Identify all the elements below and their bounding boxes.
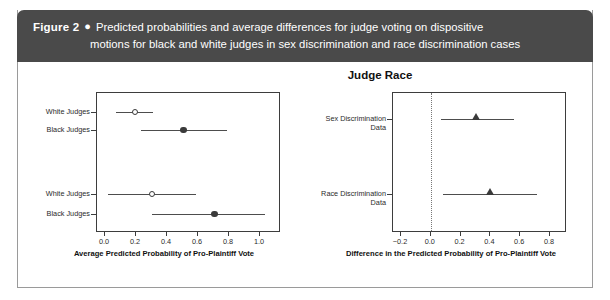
left-xaxis-title: Average Predicted Probability of Pro-Pla… (18, 249, 310, 258)
figure-number-label: Figure 2 (33, 21, 79, 33)
right-panel: Judge Race Sex Discrimination Data Race … (310, 64, 592, 286)
left-xticklabel-3: 0.6 (182, 237, 212, 246)
left-ylabel-1: Black Judges (18, 126, 90, 135)
figure-caption-line-1: Predicted probabilities and average diff… (96, 21, 483, 33)
right-ylabel-0: Sex Discrimination Data (308, 115, 386, 132)
right-xtick-4 (519, 232, 520, 236)
left-xtick-5 (259, 232, 260, 236)
left-xticklabel-1: 0.2 (120, 237, 150, 246)
right-ylabel-0-line2: Data (371, 123, 386, 132)
left-ylabel-3: Black Judges (18, 210, 90, 219)
right-xtick-1 (430, 232, 431, 236)
right-xtick-0 (400, 232, 401, 236)
left-xtick-2 (166, 232, 167, 236)
right-xticklabel-3: 0.4 (474, 237, 504, 246)
figure-caption-line-2: motions for black and white judges in se… (90, 37, 583, 53)
right-plot-box (392, 92, 566, 232)
left-xtick-3 (197, 232, 198, 236)
right-xticklabel-5: 0.8 (534, 237, 564, 246)
left-xticklabel-5: 1.0 (244, 237, 274, 246)
left-xtick-1 (135, 232, 136, 236)
right-xticklabel-4: 0.6 (504, 237, 534, 246)
left-xticklabel-2: 0.4 (151, 237, 181, 246)
right-xticklabel-1: 0.0 (415, 237, 445, 246)
bullet-icon: ● (79, 20, 96, 32)
left-ylabel-2: White Judges (18, 190, 90, 199)
right-point-triangle-0 (472, 113, 480, 120)
right-ylabel-1: Race Discrimination Data (308, 190, 386, 207)
left-xtick-0 (104, 232, 105, 236)
right-xtick-3 (489, 232, 490, 236)
left-point-open-2 (149, 191, 155, 197)
zero-reference-line (431, 93, 433, 231)
plot-area: White Judges Black Judges White Judges B… (18, 64, 592, 286)
left-plot-box (96, 92, 280, 232)
left-panel: White Judges Black Judges White Judges B… (18, 64, 310, 286)
left-ylabel-0: White Judges (18, 108, 90, 117)
right-xaxis-title: Difference in the Predicted Probability … (310, 249, 592, 258)
right-xtick-5 (549, 232, 550, 236)
right-xticklabel-2: 0.2 (445, 237, 475, 246)
left-xtick-4 (228, 232, 229, 236)
left-point-open-0 (132, 109, 138, 115)
left-xticklabel-4: 0.8 (213, 237, 243, 246)
left-point-filled-1 (180, 127, 187, 134)
left-point-filled-3 (211, 211, 218, 218)
left-whisker-3 (152, 214, 265, 215)
left-xticklabel-0: 0.0 (89, 237, 119, 246)
figure-header-bar: Figure 2●Predicted probabilities and ave… (17, 10, 593, 62)
right-point-triangle-1 (486, 188, 494, 195)
right-xticklabel-0: −0.2 (385, 237, 415, 246)
right-ylabel-1-line2: Data (371, 198, 386, 207)
right-xtick-2 (460, 232, 461, 236)
right-panel-title: Judge Race (290, 69, 470, 81)
figure-header-text: Figure 2●Predicted probabilities and ave… (33, 17, 583, 52)
